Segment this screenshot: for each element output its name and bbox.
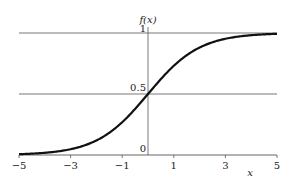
y-tick-label: 0.5 — [130, 82, 146, 93]
x-tick-label: −1 — [115, 160, 130, 171]
x-tick-label: 3 — [222, 160, 228, 171]
y-axis-label: f(x) — [138, 14, 156, 25]
x-tick-label: −5 — [12, 160, 27, 171]
sigmoid-chart: −5−3−1135 00.51 f(x) x — [0, 0, 293, 192]
x-tick-label: 5 — [274, 160, 280, 171]
x-axis-label: x — [247, 167, 253, 178]
x-tick-label: 1 — [171, 160, 177, 171]
x-tick-label: −3 — [63, 160, 78, 171]
x-axis-ticks: −5−3−1135 — [12, 155, 281, 171]
y-axis-ticks: 00.51 — [130, 23, 146, 154]
axes — [19, 27, 277, 155]
y-tick-label: 0 — [140, 143, 146, 154]
